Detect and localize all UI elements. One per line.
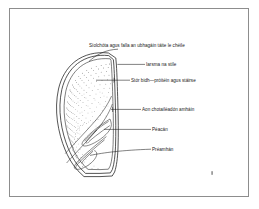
radicle-tip (82, 151, 93, 163)
seed-diagram: Síolchóta agus falla an ubhagáin táite l… (0, 0, 259, 209)
plumule-tip-curl (86, 130, 97, 143)
label-food-store: Stór bidh—próitéin agus stáirse (131, 78, 196, 83)
seed-coat-outer-path (57, 53, 119, 177)
label-plumule: Péacán (152, 127, 168, 132)
corner-speck-mark (212, 171, 213, 175)
radicle-shape (74, 137, 106, 170)
label-style-remnant: Iarsma na stíle (146, 62, 177, 67)
cotyledon-boundary (65, 96, 111, 154)
label-cotyledon: Aon chotailéadón amháin (142, 107, 195, 112)
label-testa: Síolchóta agus falla an ubhagáin táite l… (89, 43, 185, 48)
plumule-inner-vein-1 (85, 121, 109, 141)
label-radicle: Préamhán (152, 147, 174, 152)
figure-page: Síolchóta agus falla an ubhagáin táite l… (0, 0, 259, 209)
leader-line-radicle (90, 149, 151, 155)
